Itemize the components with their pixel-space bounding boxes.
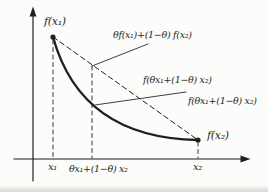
curve-value-label-lower: f(θx₁+(1−θ) x₂) — [188, 96, 257, 106]
x-axis-arrow-icon — [241, 156, 251, 163]
x1-tick-label: x₁ — [48, 162, 57, 172]
f-x2-label: f(x₂) — [207, 130, 229, 141]
xmid-tick-label: θx₁+(1−θ) x₂ — [69, 164, 128, 174]
y-axis-arrow-icon — [30, 7, 37, 17]
point-x2-dot — [195, 137, 200, 142]
curve-value-pointer-line — [95, 92, 186, 105]
curve-value-label-upper: f(θx₁+(1−θ) x₂) — [143, 75, 212, 85]
point-x1-dot — [50, 34, 55, 39]
chord-value-pointer-line — [92, 44, 148, 66]
page-scan-shadow — [0, 186, 268, 192]
f-x1-label: f(x₁) — [44, 16, 66, 27]
convex-function-diagram: f(x₁) θf(x₁)+(1−θ) f(x₂) f(θx₁+(1−θ) x₂)… — [0, 0, 268, 192]
chord-value-label: θf(x₁)+(1−θ) f(x₂) — [113, 30, 192, 40]
x2-tick-label: x₂ — [193, 162, 202, 172]
